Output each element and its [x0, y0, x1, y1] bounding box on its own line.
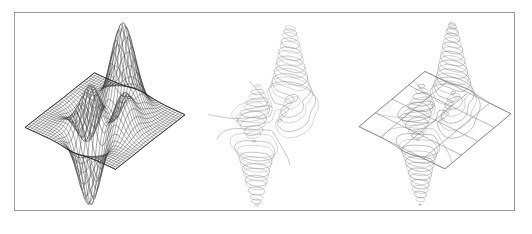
panel-surface-contours: Contour lines on surface with box: [355, 13, 515, 210]
surface-contour-svg: [355, 13, 515, 210]
figure-root: Wireframe mesh surface 3D contour curves…: [0, 0, 532, 234]
space-contour-svg: [187, 13, 357, 210]
wireframe-mesh-svg: [19, 13, 191, 210]
panel-space-contours: 3D contour curves: [187, 13, 357, 210]
panel-wireframe-mesh: Wireframe mesh surface: [19, 13, 191, 210]
figure-frame: Wireframe mesh surface 3D contour curves…: [14, 12, 515, 211]
